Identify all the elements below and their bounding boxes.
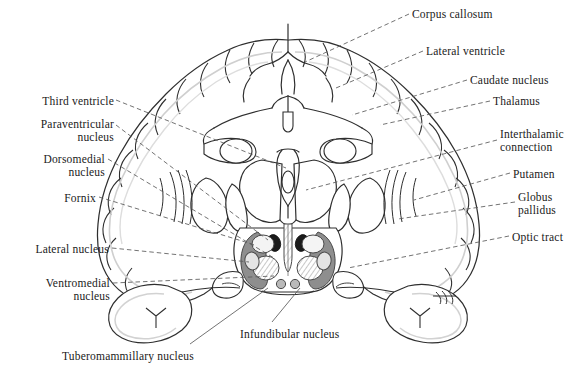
label-putamen: Putamen bbox=[513, 168, 555, 181]
leader-infundibular-nucleus bbox=[272, 288, 300, 322]
label-lateral-ventricle: Lateral ventricle bbox=[426, 45, 505, 58]
dorsomedial-nucleus-right bbox=[302, 235, 324, 253]
label-corpus-callosum: Corpus callosum bbox=[412, 8, 493, 21]
caudate-nuclei bbox=[220, 139, 356, 163]
label-dorsomedial-nucleus: Dorsomedial nucleus bbox=[2, 153, 105, 179]
label-tuberomammillary-nucleus: Tuberomammillary nucleus bbox=[62, 350, 194, 363]
label-interthalamic-connection: Interthalamic connection bbox=[500, 128, 564, 154]
label-thalamus: Thalamus bbox=[493, 95, 540, 108]
caudate-nucleus-left bbox=[220, 139, 252, 163]
caudate-nucleus-right bbox=[324, 139, 356, 163]
hypothalamus bbox=[234, 224, 342, 295]
brain-coronal-section-figure: Third ventricleParaventricular nucleusDo… bbox=[0, 0, 577, 372]
infundibular-nucleus-left bbox=[276, 279, 285, 288]
label-paraventricular-nucleus: Paraventricular nucleus bbox=[2, 118, 114, 144]
interthalamic-connection-mass bbox=[282, 171, 294, 193]
infundibular-nucleus-right bbox=[290, 279, 299, 288]
label-fornix: Fornix bbox=[18, 192, 96, 205]
label-globus-pallidus: Globus pallidus bbox=[518, 191, 556, 217]
label-third-ventricle: Third ventricle bbox=[18, 95, 114, 108]
dorsomedial-nucleus-left bbox=[252, 235, 274, 253]
label-lateral-nucleus: Lateral nucleus bbox=[6, 243, 109, 256]
label-ventromedial-nucleus: Ventromedial nucleus bbox=[2, 277, 110, 303]
label-caudate-nucleus: Caudate nucleus bbox=[470, 74, 549, 87]
label-optic-tract: Optic tract bbox=[512, 231, 563, 244]
label-infundibular-nucleus: Infundibular nucleus bbox=[240, 328, 340, 341]
